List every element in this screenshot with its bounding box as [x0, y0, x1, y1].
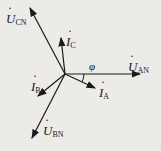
label-i-c: IC [66, 35, 76, 50]
label-i-b: IB [31, 80, 41, 95]
angle-arc [82, 74, 84, 82]
label-u-bn: UBN [43, 124, 64, 139]
angle-phi-label: φ [89, 60, 95, 72]
label-u-an: UAN [128, 60, 149, 75]
phasor-i-a [65, 74, 95, 88]
label-i-a: IA [99, 86, 109, 101]
phasor-i-b [38, 74, 65, 96]
label-u-cn: UCN [6, 12, 27, 27]
phasor-u-cn [30, 8, 65, 74]
